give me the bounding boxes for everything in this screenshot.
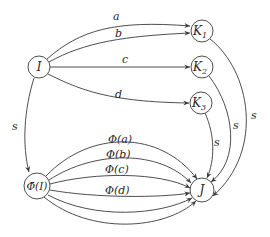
node-K1: K1 <box>191 20 213 42</box>
edge-Phi-unlabeled-2 <box>44 197 196 224</box>
node-I-label: I <box>36 60 42 74</box>
node-K3: K3 <box>190 92 212 114</box>
edge-s-K2-to-J <box>209 76 231 182</box>
edge-s-I-to-PhiI <box>25 78 34 172</box>
label-s-K1-J: s <box>251 109 257 122</box>
label-a: a <box>113 10 120 23</box>
label-s-K3-J: s <box>214 136 220 149</box>
node-K2-sub: 2 <box>201 67 207 76</box>
node-K1-sub: 1 <box>202 31 207 40</box>
label-b: b <box>115 27 122 40</box>
edge-Phi-unlabeled-1 <box>48 195 192 212</box>
commutative-diagram: a b c d s s s s Φ(a) Φ(b) Φ(c) Φ(d) I K1… <box>0 0 270 237</box>
label-c: c <box>122 53 128 66</box>
label-Phi-c: Φ(c) <box>105 163 129 176</box>
label-d: d <box>115 88 122 101</box>
label-s-I-PhiI: s <box>12 120 18 133</box>
label-Phi-a: Φ(a) <box>108 133 132 146</box>
node-I: I <box>28 56 50 78</box>
node-PhiI-label: Φ̄(I) <box>27 180 48 192</box>
edge-s-K3-to-J <box>205 113 213 178</box>
label-Phi-d: Φ(d) <box>105 184 130 197</box>
node-J: J <box>190 178 214 202</box>
node-K3-sub: 3 <box>201 103 206 112</box>
label-s-K2-J: s <box>233 119 239 132</box>
node-PhiI: Φ̄(I) <box>24 173 50 199</box>
node-K2: K2 <box>191 56 213 78</box>
label-Phi-b: Φ(b) <box>106 148 131 161</box>
